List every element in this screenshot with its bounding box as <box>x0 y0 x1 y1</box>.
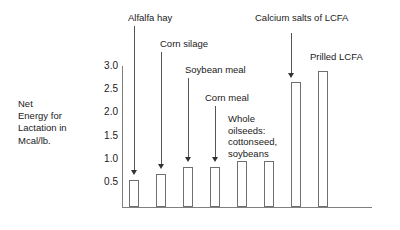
bar-prilled-lcfa <box>318 71 328 207</box>
y-tick-2-5: 2.5 <box>96 84 118 94</box>
bar-soybean-meal <box>183 167 193 207</box>
annotation-prilled-lcfa: Prilled LCFA <box>310 51 363 63</box>
annotation-alfalfa-hay: Alfalfa hay <box>128 12 172 24</box>
annotation-calcium-salts-lcfa: Calcium salts of LCFA <box>255 12 348 24</box>
bar-whole-oilseeds-cottonseed <box>237 161 247 207</box>
bar-corn-silage <box>156 174 166 207</box>
bar-corn-meal <box>210 167 220 207</box>
annotation-corn-silage: Corn silage <box>160 38 208 50</box>
arrow-corn-meal <box>212 106 219 162</box>
annotation-whole-oilseeds: Whole oilseeds: cottonseed, soybeans <box>228 113 277 159</box>
bar-calcium-salts-lcfa <box>291 82 301 207</box>
annotation-corn-meal: Corn meal <box>205 92 249 104</box>
arrow-alfalfa-hay <box>131 26 138 175</box>
y-axis-title: Net Energy for Lactation in Mcal/lb. <box>18 98 98 147</box>
y-tick-0-5: 0.5 <box>96 177 118 187</box>
y-tick-1-5: 1.5 <box>96 131 118 141</box>
net-energy-lactation-chart: Net Energy for Lactation in Mcal/lb. 3.0… <box>0 0 400 230</box>
bar-whole-oilseeds-soybeans <box>264 161 274 207</box>
y-tick-3-0: 3.0 <box>96 61 118 71</box>
arrow-corn-silage <box>158 52 165 169</box>
y-axis-tick-labels: 3.0 2.5 2.0 1.5 1.0 0.5 <box>94 0 118 230</box>
annotation-soybean-meal: Soybean meal <box>185 64 246 76</box>
bar-alfalfa-hay <box>129 180 139 207</box>
y-tick-1-0: 1.0 <box>96 154 118 164</box>
y-tick-2-0: 2.0 <box>96 107 118 117</box>
arrow-soybean-meal <box>185 78 192 162</box>
arrow-calcium-salts-lcfa <box>288 33 295 78</box>
